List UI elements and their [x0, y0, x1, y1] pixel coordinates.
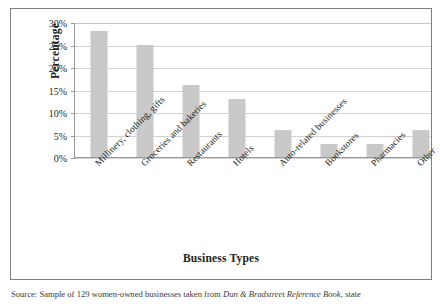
y-tick-label: 10%	[49, 108, 67, 119]
x-axis-title: Business Types	[11, 252, 431, 264]
y-tick-mark	[71, 23, 75, 24]
source-note-prefix: Source: Sample of 129 women-owned busine…	[11, 289, 223, 299]
y-tick-label: 5%	[54, 130, 67, 141]
y-tick-mark	[71, 68, 75, 69]
y-tick-label: 25%	[49, 40, 67, 51]
source-note: Source: Sample of 129 women-owned busine…	[11, 289, 440, 299]
y-tick-mark	[71, 136, 75, 137]
chart-figure-frame: Percentage 0%5%10%15%20%25%30% Millinery…	[10, 8, 432, 280]
y-tick-label: 30%	[49, 18, 67, 29]
source-note-book-title: Dun & Bradstreet Reference Book	[223, 289, 341, 299]
y-tick-mark	[71, 158, 75, 159]
clipped-text-remnant	[51, 5, 331, 11]
x-axis-category-labels: Millinery, clothing, giftsGroceries and …	[74, 161, 431, 261]
y-tick-label: 0%	[54, 153, 67, 164]
bar-slot	[76, 23, 122, 157]
source-note-suffix: , state	[341, 289, 361, 299]
bar	[137, 45, 154, 158]
y-tick-label: 20%	[49, 63, 67, 74]
y-tick-mark	[71, 113, 75, 114]
y-tick-label: 15%	[49, 85, 67, 96]
bar-slot	[260, 23, 306, 157]
y-tick-mark	[71, 91, 75, 92]
bar	[91, 31, 108, 157]
y-tick-mark	[71, 46, 75, 47]
